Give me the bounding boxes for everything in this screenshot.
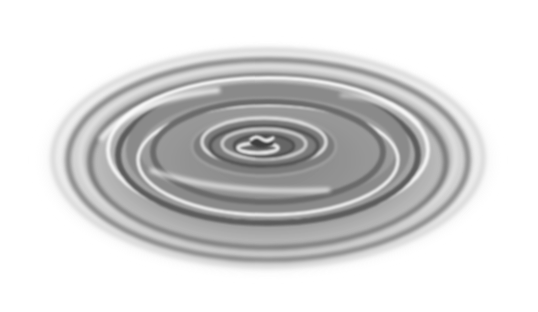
ripple-image: Concentric water ripples bbox=[0, 0, 538, 312]
water-ripples-graphic bbox=[0, 0, 538, 312]
center-droplet bbox=[250, 136, 274, 148]
